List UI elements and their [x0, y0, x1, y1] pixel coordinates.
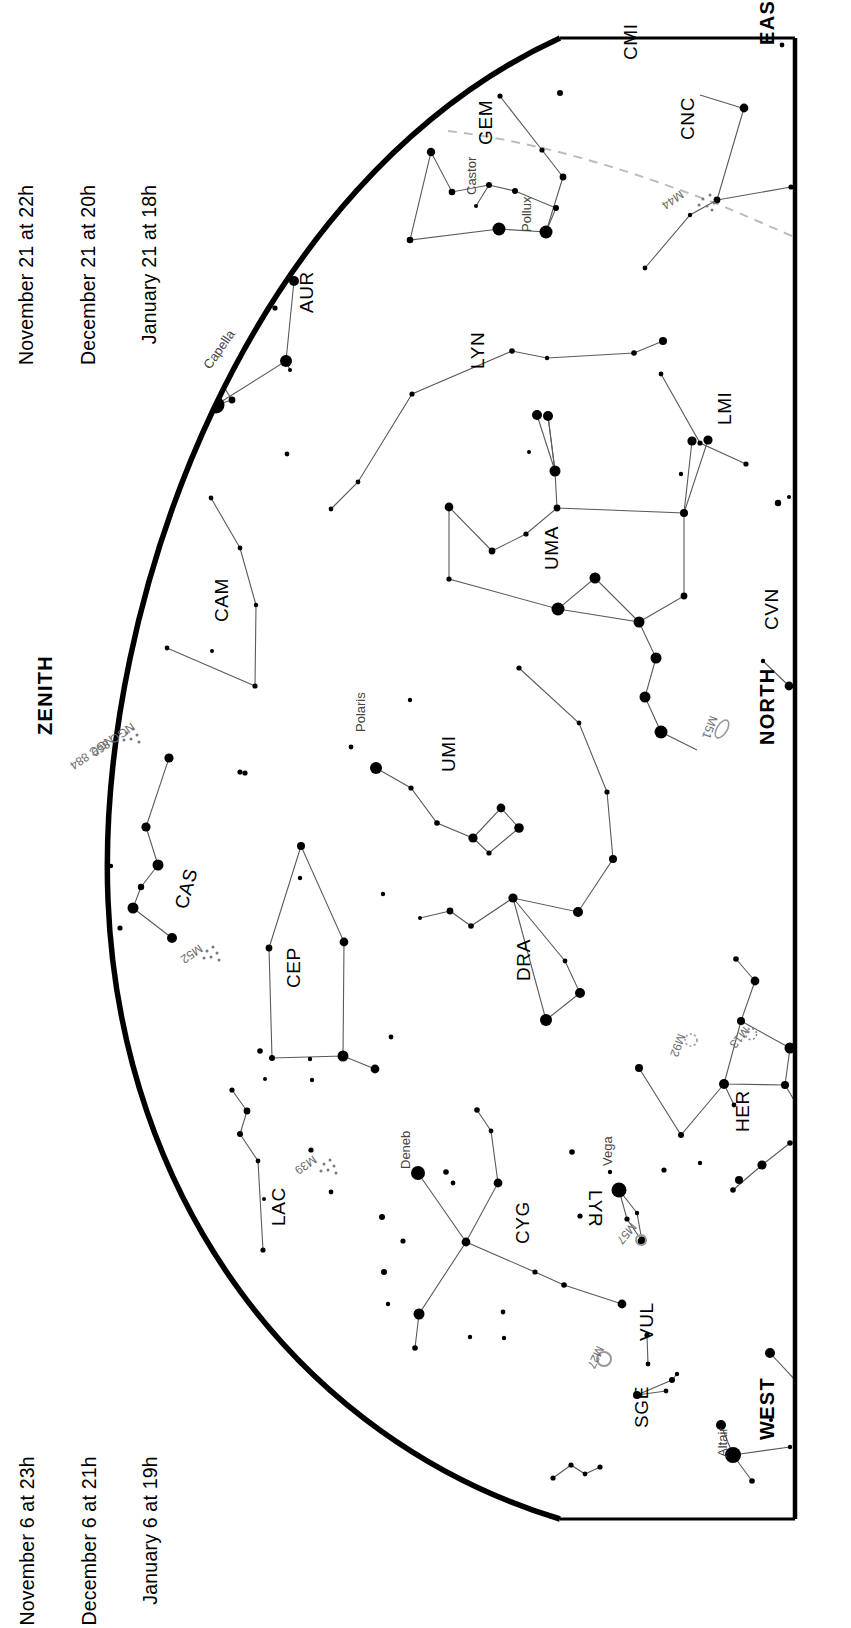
constellation-label-cnc: CNC [677, 97, 698, 140]
star-label-deneb: Deneb [398, 1131, 413, 1169]
constellation-label-gem: GEM [475, 100, 496, 145]
constellation-label-umi: UMI [438, 735, 459, 772]
constellation-label-sge: SGE [631, 1386, 652, 1428]
star-label-altair: Altair [715, 1427, 730, 1457]
date-block-top: September 21 at 2h October 21 at 0h Nove… [0, 185, 199, 371]
date-line: November 6 at 23h [15, 1456, 41, 1628]
constellation-label-cmi: CMI [620, 23, 641, 60]
constellation-label-vul: VUL [636, 1302, 657, 1341]
cardinal-label-zenith: ZENITH [34, 655, 57, 735]
star-label-polaris: Polaris [353, 692, 368, 732]
star-label-vega: Vega [600, 1136, 615, 1166]
star-label-pollux: Pollux [519, 196, 534, 232]
constellation-label-her: HER [732, 1090, 753, 1132]
constellation-label-lyn: LYN [467, 332, 488, 369]
constellation-label-uma: UMA [541, 526, 562, 570]
date-line: January 6 at 19h [138, 1456, 164, 1628]
constellation-label-dra: DRA [513, 939, 534, 981]
date-line: December 21 at 20h [76, 185, 102, 371]
constellation-label-lac: LAC [268, 1187, 289, 1226]
dome-interior [107, 38, 795, 1519]
constellation-label-cam: CAM [211, 578, 232, 622]
cardinal-label-north: NORTH [756, 667, 779, 745]
date-line: December 6 at 21h [76, 1456, 102, 1628]
date-line: November 21 at 22h [14, 185, 40, 371]
constellation-label-cep: CEP [283, 947, 304, 988]
cardinal-label-east: EAST [756, 0, 779, 45]
star-label-castor: Castor [464, 156, 479, 195]
constellation-label-lyr: LYR [585, 1190, 606, 1227]
constellation-label-cvn: CVN [761, 588, 782, 630]
constellation-label-lmi: LMI [714, 392, 735, 425]
constellation-label-aur: AUR [296, 271, 317, 313]
cardinal-label-west: WEST [756, 1377, 779, 1440]
star-label-capella: Capella [200, 326, 238, 371]
constellation-label-cyg: CYG [512, 1201, 533, 1244]
date-block-bottom: September 6 at 3h October 6 at 1h Novemb… [0, 1456, 199, 1628]
date-line: January 21 at 18h [137, 185, 163, 371]
